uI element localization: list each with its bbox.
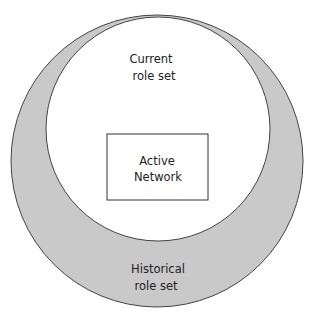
current-role-set-label-line1: Current xyxy=(129,52,173,66)
current-role-set-label-line2: role set xyxy=(132,69,176,83)
historical-role-set-label-line2: role set xyxy=(134,279,178,293)
historical-role-set-label-line1: Historical xyxy=(131,262,185,276)
role-set-diagram: Current role set Active Network Historic… xyxy=(0,0,313,320)
current-role-set-circle xyxy=(46,17,270,241)
active-network-label-line1: Active xyxy=(139,154,175,168)
active-network-label-line2: Network xyxy=(134,170,182,184)
